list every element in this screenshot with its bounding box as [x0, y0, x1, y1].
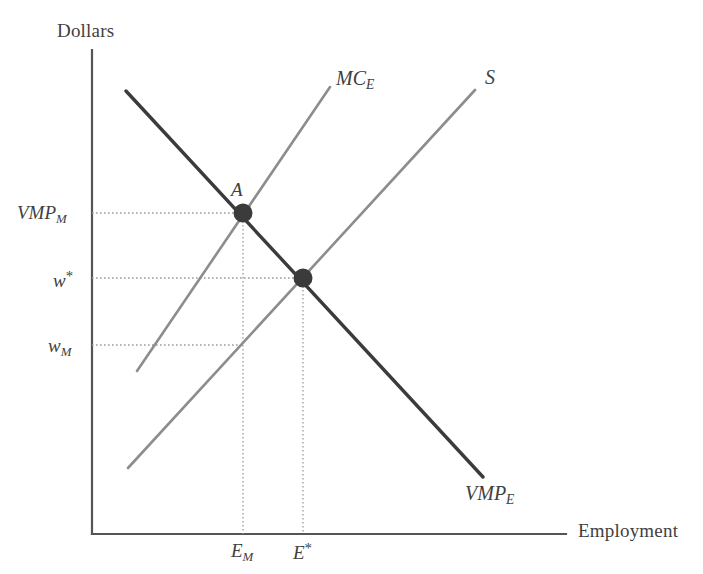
- y-tick-label-wstar: w*: [53, 269, 73, 290]
- y-tick-wm-subscript: M: [61, 344, 72, 359]
- curve-label-s: S: [485, 67, 495, 87]
- point-label-a: A: [231, 180, 243, 199]
- monopsony-labor-market-figure: Dollars Employment MCE S VMPE A VMPM w* …: [0, 0, 703, 574]
- y-tick-vmpm-base: VMP: [17, 202, 56, 223]
- x-tick-label-estar: E*: [293, 541, 312, 562]
- y-tick-label-wm: wM: [48, 336, 71, 359]
- x-tick-estar-base: E: [293, 542, 305, 563]
- marker-point-a: [234, 204, 253, 223]
- x-tick-em-subscript: M: [243, 549, 254, 564]
- y-tick-wstar-base: w: [53, 270, 66, 291]
- curve-label-mce: MCE: [336, 68, 374, 92]
- x-axis-title: Employment: [578, 521, 678, 540]
- y-axis-title: Dollars: [57, 21, 114, 40]
- marker-competitive-equilibrium: [294, 269, 313, 288]
- y-tick-vmpm-subscript: M: [56, 211, 67, 226]
- x-tick-em-base: E: [231, 540, 243, 561]
- y-tick-label-vmpm: VMPM: [17, 203, 67, 226]
- curve-label-mce-base: MC: [336, 67, 366, 89]
- curve-mce: [137, 87, 330, 371]
- x-tick-label-em: EM: [231, 541, 253, 564]
- y-tick-wstar-superscript: *: [66, 268, 73, 284]
- curve-label-vmpe-subscript: E: [506, 492, 514, 507]
- x-tick-estar-superscript: *: [305, 540, 312, 556]
- curve-label-mce-subscript: E: [366, 77, 374, 92]
- curve-label-vmpe-base: VMP: [465, 482, 506, 504]
- y-tick-wm-base: w: [48, 335, 61, 356]
- curve-label-vmpe: VMPE: [465, 483, 514, 507]
